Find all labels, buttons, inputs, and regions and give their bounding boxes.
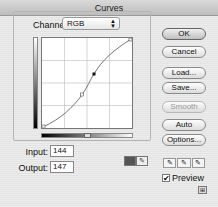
input-gradient-bar xyxy=(41,133,133,138)
input-label: Input: xyxy=(18,147,48,157)
auto-button[interactable]: Auto xyxy=(162,119,206,131)
gray-eyedropper-icon[interactable]: ✎ xyxy=(177,158,190,168)
options-button[interactable]: Options... xyxy=(162,134,206,146)
preview-checkbox[interactable]: ✔ Preview xyxy=(162,173,204,183)
save-button[interactable]: Save... xyxy=(162,82,206,94)
output-field[interactable]: 147 xyxy=(50,161,74,173)
smooth-button[interactable]: Smooth xyxy=(162,101,206,113)
expand-icon[interactable]: ⊞ xyxy=(198,186,207,194)
cancel-button[interactable]: Cancel xyxy=(162,46,206,58)
output-label: Output: xyxy=(18,163,48,173)
curve-svg xyxy=(42,38,132,128)
select-arrows-icon: ▲▼ xyxy=(110,18,116,29)
input-field[interactable]: 144 xyxy=(50,145,74,157)
curve-mode-icon[interactable] xyxy=(124,156,136,166)
channel-select[interactable]: RGB ▲▼ xyxy=(62,17,120,30)
curve-graph[interactable] xyxy=(41,37,133,129)
black-eyedropper-icon[interactable]: ✎ xyxy=(163,158,176,168)
checkmark-icon: ✔ xyxy=(162,174,170,182)
gradient-toggle-button[interactable] xyxy=(84,133,91,138)
white-eyedropper-icon[interactable]: ✎ xyxy=(192,158,205,168)
pencil-mode-icon[interactable]: ✎ xyxy=(136,156,148,166)
eyedropper-group: ✎ ✎ ✎ xyxy=(163,158,205,168)
curve-mode-buttons: ✎ xyxy=(124,156,148,166)
output-gradient-bar xyxy=(33,37,38,129)
preview-label: Preview xyxy=(172,173,204,183)
channel-value: RGB xyxy=(67,19,84,28)
ok-button[interactable]: OK xyxy=(162,28,206,40)
load-button[interactable]: Load... xyxy=(162,67,206,79)
